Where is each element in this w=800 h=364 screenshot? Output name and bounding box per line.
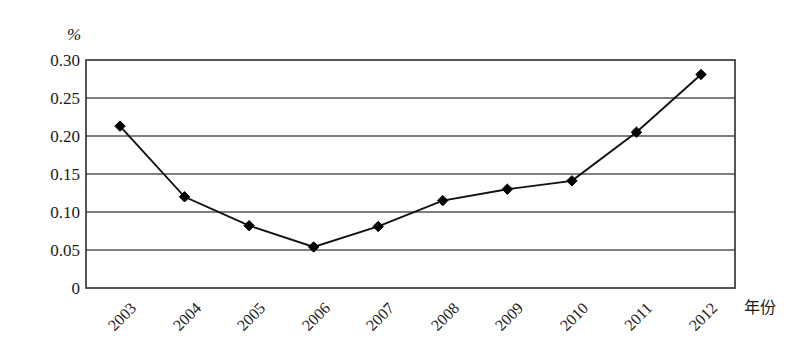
- x-tick-label: 2007: [349, 300, 397, 348]
- x-axis-title: 年份: [744, 300, 776, 316]
- x-tick-label: 2010: [543, 300, 591, 348]
- x-axis-tick-labels: 2003200420052006200720082009201020112012: [0, 0, 800, 364]
- x-tick-label: 2008: [414, 300, 462, 348]
- x-tick-label: 2003: [91, 300, 139, 348]
- chart-figure: % 0.30 0.25 0.20 0.15 0.10 0.05 0 200320…: [0, 0, 800, 364]
- x-tick-label: 2006: [285, 300, 333, 348]
- x-tick-label: 2004: [156, 300, 204, 348]
- x-tick-label: 2005: [220, 300, 268, 348]
- x-tick-label: 2011: [608, 300, 656, 348]
- x-tick-label: 2009: [479, 300, 527, 348]
- x-tick-label: 2012: [672, 300, 720, 348]
